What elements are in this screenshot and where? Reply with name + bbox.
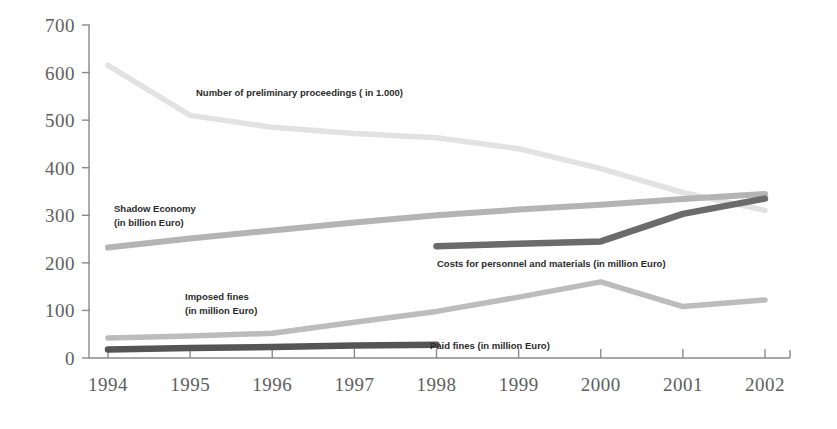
chart-container: 0100200300400500600700 19941995199619971… <box>0 0 837 429</box>
x-tick-label: 1998 <box>417 374 457 395</box>
x-tick-label: 1997 <box>334 374 374 395</box>
ann-imposed-1: Imposed fines <box>185 291 249 302</box>
y-tick-label: 600 <box>45 63 75 84</box>
y-tick-label: 400 <box>45 158 75 179</box>
x-tick-label: 1994 <box>88 374 128 395</box>
y-tick-label: 700 <box>45 15 75 36</box>
y-tick-label: 0 <box>65 348 75 369</box>
x-tick-label: 1996 <box>252 374 292 395</box>
x-tick-label: 1999 <box>499 374 539 395</box>
y-tick-label: 300 <box>45 205 75 226</box>
ann-shadow-2: (in billion Euro) <box>114 217 184 228</box>
y-axis: 0100200300400500600700 <box>45 15 90 369</box>
series-line-5 <box>108 345 437 350</box>
y-tick-label: 500 <box>45 110 75 131</box>
y-tick-label: 200 <box>45 253 75 274</box>
ann-proceedings: Number of preliminary proceedings ( in 1… <box>196 87 403 98</box>
ann-shadow-1: Shadow Economy <box>114 203 197 214</box>
line-chart-svg: 0100200300400500600700 19941995199619971… <box>0 0 837 429</box>
ann-costs: Costs for personnel and materials (in mi… <box>437 258 666 269</box>
ann-paid: Paid fines (in million Euro) <box>430 340 550 351</box>
x-axis: 199419951996199719981999200020012002 <box>88 349 790 395</box>
x-tick-label: 2000 <box>581 374 621 395</box>
x-tick-label: 1995 <box>170 374 210 395</box>
y-tick-label: 100 <box>45 300 75 321</box>
ann-imposed-2: (in million Euro) <box>185 305 257 316</box>
x-tick-label: 2001 <box>663 374 703 395</box>
x-tick-label: 2002 <box>745 374 785 395</box>
